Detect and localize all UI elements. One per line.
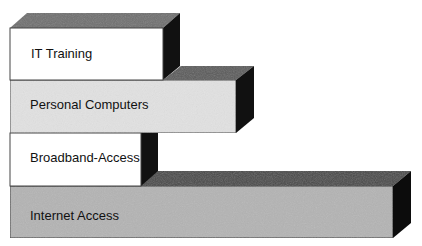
label-internet-access: Internet Access [30, 208, 119, 223]
label-personal-computers: Personal Computers [30, 97, 149, 112]
label-broadband-access: Broadband-Access [30, 150, 140, 165]
label-it-training: IT Training [31, 46, 92, 61]
